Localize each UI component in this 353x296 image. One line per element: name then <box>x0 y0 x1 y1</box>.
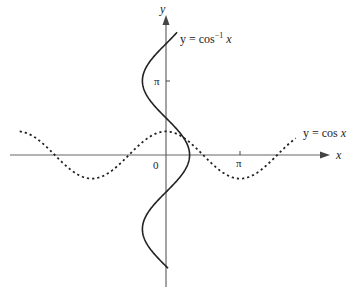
arccos-label-x: x <box>223 32 232 46</box>
arccos-label-main: y = cos <box>180 32 215 46</box>
arccos-label: y = cos−1 x <box>180 31 232 46</box>
cos-label-text: y = cos <box>303 126 341 140</box>
x-axis-arrow-icon <box>320 152 330 159</box>
x-axis-label: x <box>335 148 342 162</box>
x-tick-label-pi: π <box>236 157 242 169</box>
arccos-label-sup: −1 <box>215 31 224 40</box>
chart-canvas: y x 0 π π y = cos−1 x y = cos x <box>0 0 353 296</box>
y-tick-label-pi: π <box>154 75 160 87</box>
cos-label-x: x <box>340 126 347 140</box>
y-axis-arrow-icon <box>163 15 170 25</box>
y-axis-label: y <box>159 2 166 16</box>
origin-label: 0 <box>153 159 159 171</box>
cos-label: y = cos x <box>303 126 347 140</box>
